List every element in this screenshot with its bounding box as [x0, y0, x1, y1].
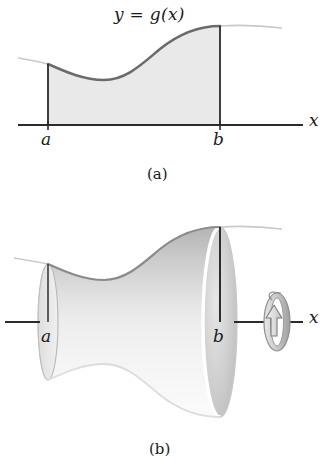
bound-label-b-panel-b: b — [213, 326, 224, 346]
axis-label-x-panel-a: x — [309, 110, 319, 130]
curve-extension-right — [220, 25, 282, 28]
axis-label-x-panel-b: x — [309, 307, 319, 327]
function-label-y-equals-g-of-x: y = g(x) — [114, 4, 185, 24]
caption-b: (b) — [149, 440, 170, 458]
bound-label-a-panel-a: a — [41, 129, 51, 149]
panel-b-graphic — [5, 226, 303, 417]
rotation-arrow-icon — [264, 292, 290, 351]
bound-label-b-panel-a: b — [213, 129, 224, 149]
profile-extension-left — [14, 258, 48, 264]
figure-vector-layer — [0, 0, 330, 471]
profile-extension-right — [220, 226, 282, 229]
caption-a: (a) — [147, 165, 168, 183]
bound-label-a-panel-b: a — [41, 326, 51, 346]
panel-a-graphic — [18, 25, 303, 130]
math-figure-solid-of-revolution: y = g(x) a b x (a) a b x (b) — [0, 0, 330, 471]
curve-extension-left — [18, 58, 48, 64]
